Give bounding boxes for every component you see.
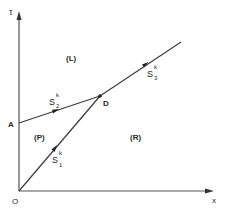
svg-text:3: 3 xyxy=(154,75,158,81)
s2-label: S k 2 xyxy=(49,92,60,109)
svg-text:S: S xyxy=(147,69,153,79)
s2-direction-arrow-icon xyxy=(52,109,59,114)
region-r-label: (R) xyxy=(130,133,141,142)
s1-label: S k 1 xyxy=(52,150,63,168)
svg-text:S: S xyxy=(52,155,58,165)
svg-text:1: 1 xyxy=(59,162,63,168)
region-p-label: (P) xyxy=(34,133,45,142)
x-axis-label: x xyxy=(212,196,216,205)
svg-text:2: 2 xyxy=(56,103,60,109)
tau-axis-arrow-icon xyxy=(17,11,22,20)
svg-text:k: k xyxy=(56,92,60,98)
characteristic-diagram: τ x O A D (L) (P) (R) S k 1 S k 2 S k 3 xyxy=(0,0,225,214)
region-l-label: (L) xyxy=(66,54,77,63)
s1-direction-arrow-icon xyxy=(52,145,58,152)
svg-text:k: k xyxy=(59,150,63,156)
point-d-marker xyxy=(98,94,102,98)
s3-label: S k 3 xyxy=(147,64,158,81)
curve-s1 xyxy=(19,96,100,191)
point-a-label: A xyxy=(8,120,14,129)
svg-text:k: k xyxy=(154,64,158,70)
curve-s3 xyxy=(100,42,181,96)
tau-axis-label: τ xyxy=(9,7,13,17)
svg-text:S: S xyxy=(49,97,55,107)
x-axis-arrow-icon xyxy=(205,189,214,194)
point-d-label: D xyxy=(103,99,109,108)
origin-label: O xyxy=(12,197,18,206)
